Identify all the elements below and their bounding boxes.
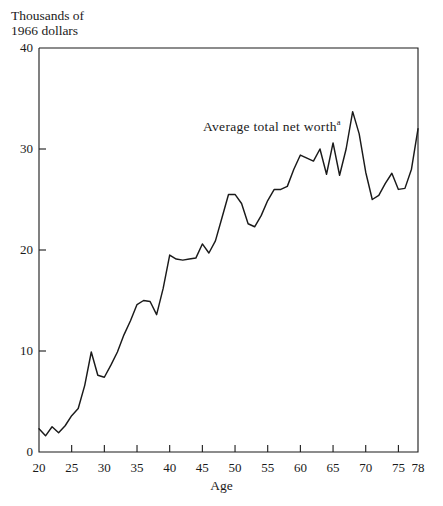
- axis-frame: [39, 48, 418, 452]
- y-tick-label: 0: [0, 444, 33, 460]
- y-tick-label: 30: [0, 141, 33, 157]
- plot-area: [0, 0, 443, 506]
- x-tick-label: 78: [398, 460, 438, 476]
- y-tick-label: 20: [0, 242, 33, 258]
- footnote-marker: a: [337, 117, 341, 127]
- y-tick-label: 40: [0, 40, 33, 56]
- series-annotation-text: Average total net worth: [203, 119, 337, 134]
- y-tick-label: 10: [0, 343, 33, 359]
- data-line-average-total-net-worth: [39, 112, 418, 436]
- series-annotation: Average total net wortha: [203, 117, 341, 135]
- x-axis-title: Age: [0, 478, 443, 493]
- y-axis-ticks: [39, 149, 46, 351]
- x-axis-ticks: [72, 445, 399, 452]
- chart-container: Thousands of 1966 dollars Average total …: [0, 0, 443, 506]
